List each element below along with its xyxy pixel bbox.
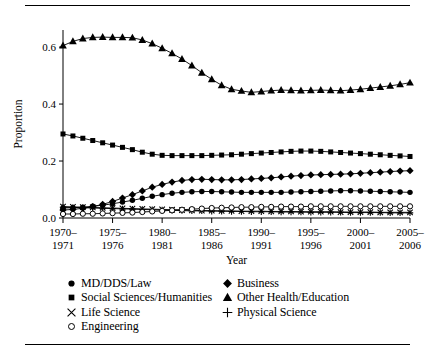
marker-filled-circle bbox=[130, 198, 135, 203]
marker-open-circle bbox=[80, 211, 85, 216]
marker-open-circle bbox=[249, 205, 254, 210]
marker-filled-diamond bbox=[297, 172, 304, 179]
legend-column-2: BusinessOther Health/EducationPhysical S… bbox=[222, 276, 349, 320]
legend-item[interactable]: Physical Science bbox=[222, 305, 349, 320]
marker-filled-triangle bbox=[198, 69, 206, 76]
x-tick-label: 1996 bbox=[300, 239, 323, 251]
marker-filled-circle bbox=[378, 189, 383, 194]
figure-top-rule bbox=[25, 5, 410, 6]
marker-filled-diamond bbox=[287, 173, 294, 180]
marker-cross-x bbox=[68, 308, 76, 316]
marker-open-circle bbox=[70, 211, 75, 216]
marker-filled-circle bbox=[308, 189, 313, 194]
marker-filled-diamond bbox=[149, 184, 156, 191]
marker-filled-square bbox=[368, 152, 373, 157]
marker-filled-square bbox=[189, 153, 194, 158]
legend-marker-slot bbox=[66, 277, 81, 290]
marker-open-circle bbox=[69, 324, 75, 330]
marker-filled-diamond bbox=[317, 171, 324, 178]
marker-open-circle bbox=[328, 204, 333, 209]
x-tick-label: 2005– bbox=[396, 226, 424, 238]
legend-marker-plus bbox=[222, 306, 235, 319]
marker-open-circle bbox=[140, 209, 145, 214]
marker-filled-triangle bbox=[109, 33, 117, 40]
marker-filled-square bbox=[150, 152, 155, 157]
marker-open-circle bbox=[169, 208, 174, 213]
marker-filled-square bbox=[388, 153, 393, 158]
marker-filled-circle bbox=[229, 189, 234, 194]
legend-item[interactable]: Engineering bbox=[66, 320, 212, 335]
marker-filled-circle bbox=[387, 189, 392, 194]
marker-filled-diamond bbox=[208, 176, 215, 183]
marker-filled-diamond bbox=[139, 187, 146, 194]
marker-filled-square bbox=[179, 153, 184, 158]
marker-filled-circle bbox=[338, 188, 343, 193]
marker-filled-circle bbox=[189, 189, 194, 194]
marker-filled-triangle bbox=[89, 33, 97, 40]
marker-open-circle bbox=[397, 204, 402, 209]
marker-filled-square bbox=[338, 150, 343, 155]
marker-filled-diamond bbox=[119, 194, 126, 201]
legend-marker-cross-x bbox=[66, 306, 79, 319]
marker-filled-circle bbox=[268, 190, 273, 195]
marker-filled-diamond bbox=[218, 176, 225, 183]
marker-filled-triangle bbox=[287, 86, 295, 93]
marker-filled-circle bbox=[397, 189, 402, 194]
marker-filled-triangle bbox=[119, 33, 127, 40]
x-axis-title: Year bbox=[226, 254, 247, 266]
marker-filled-diamond bbox=[396, 167, 403, 174]
marker-filled-circle bbox=[149, 194, 154, 199]
marker-filled-triangle bbox=[277, 86, 285, 93]
legend-item[interactable]: Social Sciences/Humanities bbox=[66, 291, 212, 306]
legend-item-label: Business bbox=[237, 276, 279, 291]
marker-filled-circle bbox=[179, 190, 184, 195]
marker-open-circle bbox=[338, 204, 343, 209]
marker-filled-triangle bbox=[218, 81, 226, 88]
marker-filled-square bbox=[318, 149, 323, 154]
legend-item-label: Engineering bbox=[81, 319, 139, 334]
legend-marker-slot bbox=[66, 306, 81, 319]
legend-item[interactable]: Business bbox=[222, 276, 349, 291]
y-tick-label: 0.6 bbox=[42, 41, 56, 53]
marker-open-circle bbox=[407, 204, 412, 209]
marker-filled-diamond bbox=[307, 171, 314, 178]
legend-item[interactable]: Other Health/Education bbox=[222, 291, 349, 306]
marker-filled-square bbox=[398, 153, 403, 158]
marker-open-circle bbox=[209, 205, 214, 210]
marker-open-circle bbox=[378, 204, 383, 209]
marker-filled-circle bbox=[348, 188, 353, 193]
x-tick-label: 2001 bbox=[349, 239, 371, 251]
legend-marker-slot bbox=[66, 320, 81, 333]
marker-filled-square bbox=[358, 151, 363, 156]
legend-marker-slot bbox=[66, 291, 81, 304]
marker-open-circle bbox=[229, 205, 234, 210]
x-tick-label: 2000– bbox=[347, 226, 375, 238]
marker-open-circle bbox=[308, 204, 313, 209]
legend-item-label: Other Health/Education bbox=[237, 290, 349, 305]
marker-open-circle bbox=[388, 204, 393, 209]
x-tick-label: 1990– bbox=[248, 226, 276, 238]
marker-filled-triangle bbox=[317, 86, 325, 93]
marker-filled-diamond bbox=[406, 167, 413, 174]
marker-filled-diamond bbox=[337, 171, 344, 178]
marker-filled-square bbox=[170, 153, 175, 158]
marker-open-circle bbox=[358, 204, 363, 209]
marker-filled-triangle bbox=[168, 49, 176, 56]
marker-filled-square bbox=[249, 151, 254, 156]
marker-open-circle bbox=[219, 205, 224, 210]
marker-open-circle bbox=[110, 211, 115, 216]
legend-item[interactable]: MD/DDS/Law bbox=[66, 276, 212, 291]
marker-filled-square bbox=[259, 151, 264, 156]
legend-item[interactable]: Life Science bbox=[66, 305, 212, 320]
marker-filled-triangle bbox=[228, 85, 236, 92]
marker-filled-square bbox=[70, 133, 75, 138]
marker-filled-square bbox=[110, 143, 115, 148]
legend-marker-slot bbox=[222, 291, 237, 304]
marker-filled-square bbox=[160, 153, 165, 158]
marker-open-circle bbox=[269, 204, 274, 209]
marker-filled-circle bbox=[288, 189, 293, 194]
legend-item-label: Physical Science bbox=[237, 305, 316, 320]
chart-plot-area: 0.00.20.40.6Proportion1970–19711975–1976… bbox=[0, 10, 432, 276]
marker-open-circle bbox=[288, 204, 293, 209]
marker-filled-diamond bbox=[159, 181, 166, 188]
